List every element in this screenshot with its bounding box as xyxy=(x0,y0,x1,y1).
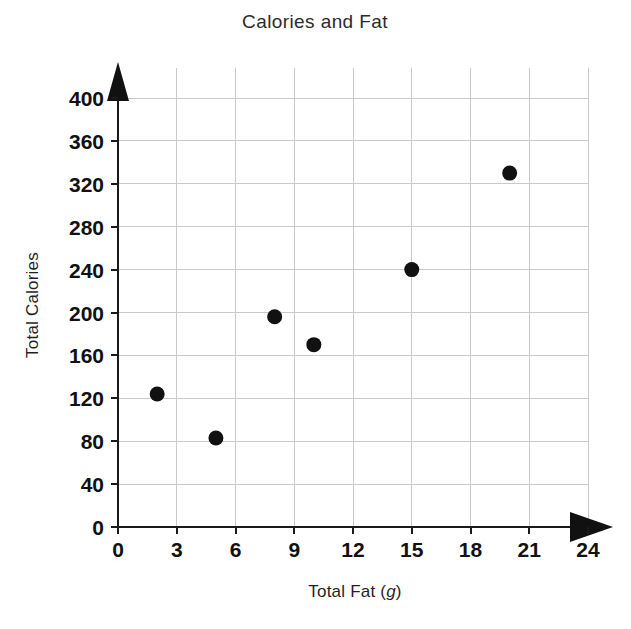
y-tick-label: 80 xyxy=(81,430,104,453)
y-tick-label: 120 xyxy=(69,387,104,410)
y-tick-label: 280 xyxy=(69,216,104,239)
data-point xyxy=(404,262,419,277)
data-point xyxy=(267,309,282,324)
y-tick-label: 160 xyxy=(69,344,104,367)
x-axis-title-main: Total Fat ( xyxy=(308,582,386,601)
data-point xyxy=(306,337,321,352)
y-tick-label: 360 xyxy=(69,130,104,153)
x-tick-label: 3 xyxy=(171,538,183,561)
x-tick-label: 12 xyxy=(341,538,364,561)
x-tick-label: 6 xyxy=(230,538,242,561)
data-point xyxy=(150,387,165,402)
x-tick-label: 15 xyxy=(400,538,424,561)
x-tick-label: 21 xyxy=(518,538,542,561)
x-tick-label: 9 xyxy=(288,538,300,561)
scatter-plot: Calories and Fat 04080120160200240280320… xyxy=(0,0,631,629)
x-tick-label: 18 xyxy=(459,538,483,561)
y-tick-label: 400 xyxy=(69,87,104,110)
chart-container: Calories and Fat 04080120160200240280320… xyxy=(0,0,631,629)
x-axis-title-unit: g xyxy=(386,582,396,601)
data-point xyxy=(502,166,517,181)
data-point xyxy=(208,430,223,445)
y-tick-label: 320 xyxy=(69,173,104,196)
y-tick-label: 240 xyxy=(69,259,104,282)
x-tick-label: 0 xyxy=(112,538,124,561)
chart-title: Calories and Fat xyxy=(242,11,388,32)
y-tick-label: 40 xyxy=(81,473,104,496)
y-axis-title: Total Calories xyxy=(23,252,42,358)
y-tick-label: 0 xyxy=(92,516,104,539)
y-tick-label: 200 xyxy=(69,302,104,325)
x-tick-label: 24 xyxy=(576,538,600,561)
x-axis-title: Total Fat (g) xyxy=(308,582,401,601)
x-axis-title-close: ) xyxy=(396,582,402,601)
